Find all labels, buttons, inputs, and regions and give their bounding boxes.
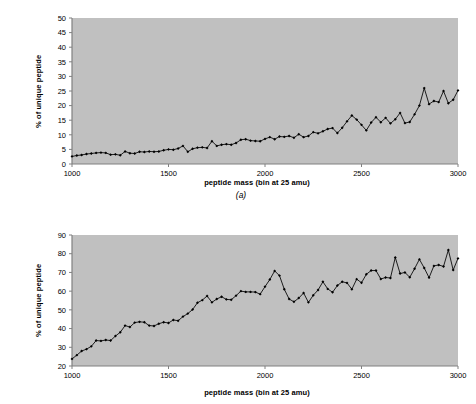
y-axis-tick-label: 90: [58, 231, 66, 240]
x-axis-tick-label: 2000: [257, 169, 274, 178]
x-axis-tick-label: 3000: [450, 371, 467, 380]
x-axis-tick-label: 2000: [257, 371, 274, 380]
chart-b: % of unique peptide 20304050607080901000…: [0, 216, 476, 396]
y-axis-tick-label: 25: [58, 87, 66, 96]
x-axis-tick-label: 1500: [160, 371, 177, 380]
y-axis-tick-label: 60: [58, 287, 66, 296]
x-axis-title-text: peptide mass (bin at 25 amu): [166, 388, 310, 397]
x-axis-tick-label: 2500: [353, 169, 370, 178]
plot-background: [72, 235, 458, 366]
x-axis-tick-label: 2500: [353, 371, 370, 380]
y-axis-tick-label: 50: [58, 14, 66, 23]
x-axis-tick-label: 1000: [64, 169, 81, 178]
y-axis-tick-label: 30: [58, 72, 66, 81]
y-axis-tick-label: 40: [58, 324, 66, 333]
plot-area-a: 0510152025303540455010001500200025003000: [0, 0, 476, 180]
y-axis-tick-label: 45: [58, 28, 66, 37]
subfigure-caption-a-text: (a): [230, 190, 246, 200]
subfigure-caption-a: (a): [0, 190, 476, 200]
figure-panel-b: % of unique peptide 20304050607080901000…: [0, 202, 476, 404]
x-axis-title: peptide mass (bin at 25 amu): [0, 178, 476, 187]
y-axis-tick-label: 5: [62, 145, 66, 154]
y-axis-tick-label: 10: [58, 131, 66, 140]
plot-background: [72, 18, 458, 164]
y-axis-tick-label: 20: [58, 362, 66, 371]
y-axis-tick-label: 15: [58, 116, 66, 125]
chart-a: % of unique peptide 05101520253035404550…: [0, 0, 476, 180]
x-axis-tick-label: 3000: [450, 169, 467, 178]
y-axis-tick-label: 40: [58, 43, 66, 52]
y-axis-tick-label: 20: [58, 101, 66, 110]
plot-area-b: 203040506070809010001500200025003000: [0, 216, 476, 396]
x-axis-tick-label: 1000: [64, 371, 81, 380]
y-axis-tick-label: 30: [58, 343, 66, 352]
x-axis-title: peptide mass (bin at 25 amu): [0, 388, 476, 397]
y-axis-tick-label: 70: [58, 268, 66, 277]
x-axis-title-text: peptide mass (bin at 25 amu): [166, 178, 310, 187]
figure-panel-a: % of unique peptide 05101520253035404550…: [0, 0, 476, 202]
y-axis-tick-label: 50: [58, 306, 66, 315]
y-axis-tick-label: 35: [58, 58, 66, 67]
y-axis-tick-label: 0: [62, 160, 66, 169]
y-axis-tick-label: 80: [58, 249, 66, 258]
x-axis-tick-label: 1500: [160, 169, 177, 178]
